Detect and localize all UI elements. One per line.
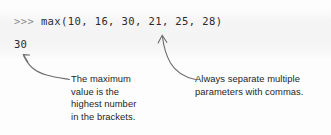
annotation-left-text: The maximum value is the highest number … — [71, 73, 175, 123]
annotated-code-figure: >>> max(10, 16, 30, 21, 25, 28) 30 The m… — [0, 0, 331, 135]
code-command: max(10, 16, 30, 21, 25, 28) — [41, 15, 222, 27]
console-input-line: >>> max(10, 16, 30, 21, 25, 28) — [14, 15, 222, 27]
annotation-left-line-3: highest number — [71, 98, 175, 111]
annotation-right-text: Always separate multiple parameters with… — [195, 73, 331, 98]
annotation-left-line-1: The maximum — [71, 73, 175, 86]
annotation-left-line-4: in the brackets. — [71, 111, 175, 124]
annotation-right-line-1: Always separate multiple — [195, 73, 331, 86]
annotation-left-line-2: value is the — [71, 86, 175, 99]
console-output-value: 30 — [14, 38, 27, 50]
prompt-symbol: >>> — [14, 15, 41, 27]
annotation-right-line-2: parameters with commas. — [195, 86, 331, 99]
annotation-left-arrow — [23, 55, 69, 80]
